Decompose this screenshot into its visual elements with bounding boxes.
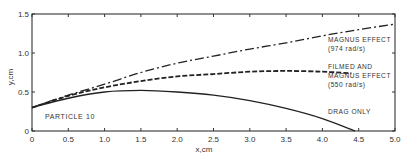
series-label: MAGNUS EFFECT xyxy=(328,36,391,43)
x-axis-label: x,cm xyxy=(196,145,213,154)
x-tick-label: 4.5 xyxy=(353,135,365,144)
x-tick-label: 5.0 xyxy=(389,135,401,144)
x-tick-label: 1.5 xyxy=(135,135,147,144)
series-labels: MAGNUS EFFECT(974 rad/s)FILMED ANDMAGNUS… xyxy=(328,36,391,115)
series-line-1 xyxy=(32,71,351,108)
x-tick-label: 0 xyxy=(30,135,35,144)
y-tick-label: 1.5 xyxy=(18,10,30,19)
y-tick-label: 0.5 xyxy=(18,88,30,97)
x-tick-label: 3.5 xyxy=(281,135,293,144)
y-tick-label: 0 xyxy=(25,127,30,136)
series-label: FILMED AND xyxy=(328,63,373,70)
x-tick-label: 0.5 xyxy=(63,135,75,144)
series-label: MAGNUS EFFECT xyxy=(328,72,391,79)
x-tick-label: 3.0 xyxy=(244,135,256,144)
x-tick-label: 1.0 xyxy=(99,135,111,144)
x-tick-label: 2.0 xyxy=(172,135,184,144)
x-tick-label: 2.5 xyxy=(208,135,220,144)
series-label: (550 rad/s) xyxy=(328,81,365,89)
y-axis-label: y,cm xyxy=(6,69,15,86)
series-line-2 xyxy=(32,90,355,131)
y-tick-label: 1.0 xyxy=(18,49,30,58)
annotation-particle: PARTICLE 10 xyxy=(45,113,95,120)
series-label: DRAG ONLY xyxy=(328,108,371,115)
series-label: (974 rad/s) xyxy=(328,45,365,53)
x-tick-label: 4.0 xyxy=(317,135,329,144)
trajectory-chart: 00.51.01.52.02.53.03.54.04.55.000.51.01.… xyxy=(0,0,410,154)
